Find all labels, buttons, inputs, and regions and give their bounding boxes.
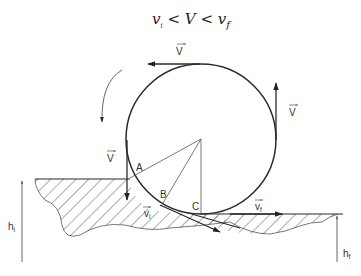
inequality-title: vi < V < vf xyxy=(152,10,232,30)
point-a-label: A xyxy=(136,162,143,173)
svg-text:vi: vi xyxy=(144,208,151,220)
label-v-top: V xyxy=(176,44,186,57)
point-c-label: C xyxy=(192,201,199,212)
height-initial-label: hi xyxy=(8,221,16,233)
point-b-label: B xyxy=(160,189,167,200)
height-final-label: hf xyxy=(343,248,351,260)
svg-text:V: V xyxy=(107,153,114,164)
label-v-left: V xyxy=(107,151,116,164)
ground-right-hatched xyxy=(200,214,338,234)
label-v-right: V xyxy=(289,105,298,118)
label-vf: vf xyxy=(255,200,263,213)
rotation-direction-arrow-icon xyxy=(102,70,122,122)
svg-text:V: V xyxy=(176,46,183,57)
radius-to-b xyxy=(163,139,201,203)
loop-diagram: vi < V < vf V V V A B C vi xyxy=(0,0,361,276)
label-vi: vi xyxy=(143,207,151,220)
svg-text:vf: vf xyxy=(255,201,262,213)
svg-text:V: V xyxy=(289,107,296,118)
